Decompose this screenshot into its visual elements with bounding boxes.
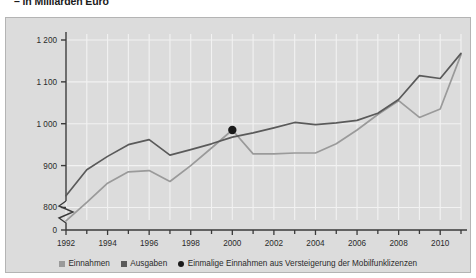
x-axis-tick-label: 1992 xyxy=(57,239,76,248)
x-axis-tick-label: 1994 xyxy=(98,239,117,248)
x-axis-tick-label: 1996 xyxy=(140,239,159,248)
annotation-marker-mobilfunklizenzen xyxy=(228,126,236,134)
x-axis-tick-label: 2010 xyxy=(431,239,450,248)
x-axis-tick-label: 2002 xyxy=(265,239,284,248)
y-axis-tick-label: 800 xyxy=(43,203,57,212)
x-axis-tick-label: 2006 xyxy=(348,239,367,248)
y-axis-tick-label: 1 200 xyxy=(37,36,58,45)
x-axis-tick-label: 2004 xyxy=(306,239,325,248)
legend-item-ausgaben[interactable]: Ausgaben xyxy=(121,259,167,268)
legend-label-mobilfunklizenzen: Einmalige Einnahmen aus Versteigerung de… xyxy=(188,259,417,268)
chart-figure: – in Milliarden Euro 08009001 0001 1001 … xyxy=(0,0,476,278)
legend-item-einnahmen[interactable]: Einnahmen xyxy=(59,259,110,268)
chart-panel: 08009001 0001 1001 200199219941996199820… xyxy=(5,17,471,273)
dot-marker-icon xyxy=(178,261,184,267)
y-axis-tick-label: 0 xyxy=(52,226,57,235)
line-chart-plot: 08009001 0001 1001 200199219941996199820… xyxy=(6,18,472,274)
square-swatch-icon xyxy=(121,261,127,267)
chart-subtitle: – in Milliarden Euro xyxy=(14,0,109,7)
x-axis-tick-label: 2000 xyxy=(223,239,242,248)
series-line-einnahmen xyxy=(66,55,461,221)
x-axis-tick-label: 1998 xyxy=(182,239,201,248)
legend-item-mobilfunklizenzen[interactable]: Einmalige Einnahmen aus Versteigerung de… xyxy=(178,259,417,268)
legend-label-ausgaben: Ausgaben xyxy=(130,259,167,268)
legend-label-einnahmen: Einnahmen xyxy=(68,259,109,268)
x-axis-tick-label: 2008 xyxy=(390,239,409,248)
y-axis-tick-label: 1 100 xyxy=(37,78,58,87)
y-axis-tick-label: 1 000 xyxy=(37,120,58,129)
chart-legend: Einnahmen Ausgaben Einmalige Einnahmen a… xyxy=(6,259,470,268)
y-axis-tick-label: 900 xyxy=(43,162,57,171)
square-swatch-icon xyxy=(59,261,65,267)
